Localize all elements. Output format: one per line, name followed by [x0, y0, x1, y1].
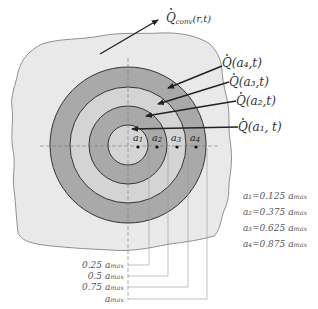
definition-a3: a₃=0.625 amax: [243, 223, 308, 233]
label-q-a3: Q(a₃,t): [229, 75, 269, 89]
dot-icon: [170, 8, 172, 10]
definition-a2: a₂=0.375 amax: [243, 207, 308, 217]
ring-definitions: a₁=0.125 amax a₂=0.375 amax a₃=0.625 ama…: [243, 191, 308, 249]
dot-icon: [226, 54, 228, 56]
point-a1: [136, 145, 139, 148]
marker-amax: amax: [105, 294, 124, 304]
label-q-conv: Qconv(r,t): [166, 11, 211, 26]
label-q-a2: Q(a₂,t): [236, 94, 276, 108]
marker-0-25-amax: 0.25 amax: [82, 260, 124, 270]
marker-0-5-amax: 0.5 amax: [88, 271, 125, 281]
point-a4: [194, 145, 197, 148]
point-a2: [155, 145, 158, 148]
dot-icon: [242, 118, 244, 120]
definition-a1: a₁=0.125 amax: [243, 191, 308, 201]
radius-markers: 0.25 amax 0.5 amax 0.75 amax amax: [82, 260, 124, 304]
point-a3: [175, 145, 178, 148]
dot-icon: [240, 92, 242, 94]
dot-icon: [233, 73, 235, 75]
label-q-a1: Q(a₁, t): [238, 120, 282, 134]
marker-0-75-amax: 0.75 amax: [82, 282, 124, 292]
heat-flux-ring-diagram: a1 a2 a3 a4 Qconv(r,t) Q(a₄,t) Q(a₃,t) Q…: [0, 0, 318, 309]
definition-a4: a₄=0.875 amax: [243, 239, 308, 249]
label-q-a4: Q(a₄,t): [222, 56, 262, 70]
